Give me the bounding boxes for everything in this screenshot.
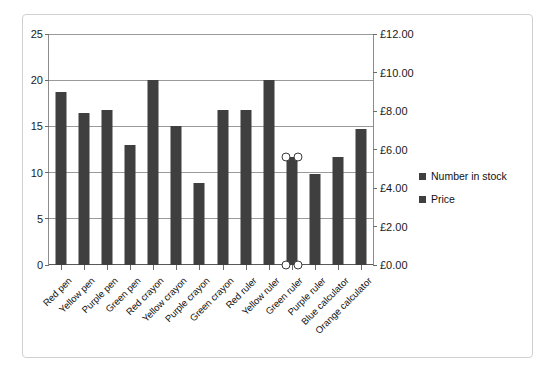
- y-axis-right-tick-mark: [373, 72, 377, 73]
- y-axis-right-tick-mark: [373, 265, 377, 266]
- legend-swatch-icon: [419, 173, 426, 180]
- plot-area[interactable]: 0510152025£0.00£2.00£4.00£6.00£8.00£10.0…: [48, 34, 374, 265]
- bar-number-in-stock[interactable]: [263, 80, 274, 265]
- y-axis-right-tick-mark: [373, 111, 377, 112]
- y-axis-left-tick-label: 0: [37, 259, 43, 271]
- bar-slot: [188, 34, 211, 265]
- bar-slot: [142, 34, 165, 265]
- legend-item[interactable]: Number in stock: [419, 170, 531, 182]
- bar-slot: [304, 34, 327, 265]
- legend-label: Number in stock: [431, 170, 507, 182]
- bar-slot: [350, 34, 373, 265]
- y-axis-left-tick-label: 10: [31, 167, 43, 179]
- bar-slot: [165, 34, 188, 265]
- bar-number-in-stock[interactable]: [286, 157, 297, 265]
- legend-label: Price: [431, 193, 455, 205]
- legend-swatch-icon: [419, 196, 426, 203]
- bar-number-in-stock[interactable]: [356, 129, 367, 265]
- y-axis-left-tick-label: 20: [31, 74, 43, 86]
- y-axis-left-tick-label: 5: [37, 213, 43, 225]
- bar-slot: [327, 34, 350, 265]
- bar-slot: [72, 34, 95, 265]
- y-axis-right-tick-label: £4.00: [380, 182, 408, 194]
- y-axis-right-tick-mark: [373, 226, 377, 227]
- bar-number-in-stock[interactable]: [78, 113, 89, 265]
- bar-number-in-stock[interactable]: [217, 110, 228, 265]
- bar-slot: [49, 34, 72, 265]
- bar-number-in-stock[interactable]: [55, 92, 66, 265]
- y-axis-right-tick-label: £6.00: [380, 144, 408, 156]
- bar-number-in-stock[interactable]: [124, 145, 135, 265]
- y-axis-right-tick-label: £8.00: [380, 105, 408, 117]
- bar-number-in-stock[interactable]: [194, 183, 205, 265]
- y-axis-right-tick-mark: [373, 188, 377, 189]
- bar-number-in-stock[interactable]: [148, 80, 159, 265]
- bar-number-in-stock[interactable]: [171, 126, 182, 265]
- bar-number-in-stock[interactable]: [310, 174, 321, 265]
- y-axis-right-tick-label: £12.00: [380, 28, 414, 40]
- bar-slot: [211, 34, 234, 265]
- y-axis-right-tick-mark: [373, 34, 377, 35]
- selection-handle[interactable]: [293, 152, 302, 161]
- bar-number-in-stock[interactable]: [333, 157, 344, 265]
- bar-slot: [234, 34, 257, 265]
- bar-slot: [280, 34, 303, 265]
- bar-number-in-stock[interactable]: [240, 110, 251, 265]
- y-axis-right-tick-label: £2.00: [380, 221, 408, 233]
- y-axis-left-tick-label: 15: [31, 120, 43, 132]
- category-axis-labels: Red penYellow penPurple penGreen penRed …: [48, 267, 374, 359]
- y-axis-left-tick-label: 25: [31, 28, 43, 40]
- bar-number-in-stock[interactable]: [101, 110, 112, 265]
- y-axis-right-tick-label: £10.00: [380, 67, 414, 79]
- chart-frame[interactable]: 0510152025£0.00£2.00£4.00£6.00£8.00£10.0…: [22, 14, 533, 358]
- bar-slot: [257, 34, 280, 265]
- bar-slot: [95, 34, 118, 265]
- y-axis-right-tick-mark: [373, 149, 377, 150]
- selection-handle[interactable]: [281, 152, 290, 161]
- legend-item[interactable]: Price: [419, 193, 531, 205]
- bar-slot: [118, 34, 141, 265]
- chart-legend[interactable]: Number in stockPrice: [419, 170, 531, 216]
- y-axis-right-tick-label: £0.00: [380, 259, 408, 271]
